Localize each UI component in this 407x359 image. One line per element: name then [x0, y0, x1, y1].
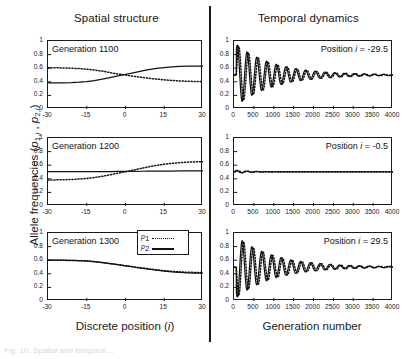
ytick-label-spatial-gen-1100-0: 0 [25, 104, 43, 111]
xtick-label-spatial-gen-1100-0: -30 [33, 111, 61, 118]
panel-label-spatial-gen-1300: Generation 1300 [52, 236, 119, 246]
ytick-label-spatial-gen-1100-2: 0.4 [25, 77, 43, 84]
xtick-label-spatial-gen-1100-2: 0 [111, 111, 139, 118]
column-title-temporal: Temporal dynamics [258, 12, 359, 24]
ytick-label-temporal-pos-minus29p5-0: 0 [211, 104, 229, 111]
ytick-label-temporal-pos-minus29p5-3: 0.6 [211, 63, 229, 70]
ytick-label-temporal-pos-minus0p5-2: 0.4 [211, 174, 229, 181]
ytick-label-spatial-gen-1200-5: 1 [25, 133, 43, 140]
ytick-label-spatial-gen-1200-1: 0.2 [25, 187, 43, 194]
figure-root: Spatial structure Temporal dynamics Alle… [0, 0, 407, 359]
xtick-label-spatial-gen-1300-0: -30 [33, 303, 61, 310]
ytick-label-temporal-pos-29p5-2: 0.4 [211, 269, 229, 276]
x-axis-label-left-suffix: ) [170, 320, 174, 332]
figure-caption: Fig. 10. Spatial and temporal ... [4, 346, 115, 355]
xtick-label-spatial-gen-1300-3: 15 [149, 303, 177, 310]
ytick-label-temporal-pos-minus0p5-5: 1 [211, 133, 229, 140]
ytick-label-temporal-pos-minus0p5-3: 0.6 [211, 160, 229, 167]
ytick-label-spatial-gen-1300-4: 0.8 [25, 242, 43, 249]
xtick-label-temporal-pos-minus29p5-8: 4000 [378, 111, 406, 118]
xtick-label-spatial-gen-1200-3: 15 [149, 208, 177, 215]
ytick-label-spatial-gen-1200-4: 0.8 [25, 147, 43, 154]
xtick-label-spatial-gen-1100-1: -15 [72, 111, 100, 118]
panel-label-temporal-pos-29p5: Position i = 29.5 [292, 236, 388, 246]
xtick-label-temporal-pos-minus0p5-8: 4000 [378, 208, 406, 215]
ytick-label-spatial-gen-1200-3: 0.6 [25, 160, 43, 167]
legend-item-p2: p2 [141, 243, 185, 253]
ytick-label-temporal-pos-minus0p5-1: 0.2 [211, 187, 229, 194]
ytick-label-spatial-gen-1100-3: 0.6 [25, 63, 43, 70]
ytick-label-temporal-pos-minus0p5-0: 0 [211, 201, 229, 208]
ytick-label-temporal-pos-29p5-4: 0.8 [211, 242, 229, 249]
ytick-label-spatial-gen-1200-0: 0 [25, 201, 43, 208]
ytick-label-spatial-gen-1100-5: 1 [25, 36, 43, 43]
series-curve-solid [234, 170, 393, 172]
xtick-label-spatial-gen-1200-0: -30 [33, 208, 61, 215]
ytick-label-spatial-gen-1100-4: 0.8 [25, 50, 43, 57]
xtick-label-spatial-gen-1100-4: 30 [188, 111, 216, 118]
ytick-label-temporal-pos-minus0p5-4: 0.8 [211, 147, 229, 154]
ytick-label-spatial-gen-1300-0: 0 [25, 296, 43, 303]
xtick-label-spatial-gen-1300-4: 30 [188, 303, 216, 310]
legend: p1 p2 [137, 230, 189, 255]
ytick-label-spatial-gen-1300-3: 0.6 [25, 255, 43, 262]
x-axis-label-left-text: Discrete position ( [76, 320, 168, 332]
ytick-label-temporal-pos-29p5-5: 1 [211, 228, 229, 235]
xtick-label-spatial-gen-1300-1: -15 [72, 303, 100, 310]
ytick-label-temporal-pos-minus29p5-4: 0.8 [211, 50, 229, 57]
ytick-label-temporal-pos-29p5-3: 0.6 [211, 255, 229, 262]
legend-swatch-solid [152, 245, 174, 251]
x-axis-label-left: Discrete position (i) [45, 320, 205, 332]
ytick-label-spatial-gen-1300-1: 0.2 [25, 282, 43, 289]
ytick-label-temporal-pos-29p5-0: 0 [211, 296, 229, 303]
legend-item-p1: p1 [141, 233, 185, 243]
panel-label-temporal-pos-minus0p5: Position i = -0.5 [292, 141, 388, 151]
ytick-label-temporal-pos-minus29p5-1: 0.2 [211, 90, 229, 97]
position-label-prefix: Position [321, 44, 356, 54]
xtick-label-temporal-pos-29p5-8: 4000 [378, 303, 406, 310]
legend-swatch-dotted [152, 235, 174, 241]
panel-label-spatial-gen-1100: Generation 1100 [52, 44, 118, 54]
ytick-label-temporal-pos-minus29p5-5: 1 [211, 36, 229, 43]
column-title-spatial: Spatial structure [74, 12, 159, 24]
position-label-prefix: Position [324, 236, 359, 246]
ytick-label-spatial-gen-1300-2: 0.4 [25, 269, 43, 276]
position-label-value: = -0.5 [362, 141, 388, 151]
ytick-label-spatial-gen-1300-5: 1 [25, 228, 43, 235]
xtick-label-spatial-gen-1200-2: 0 [111, 208, 139, 215]
ytick-label-temporal-pos-29p5-1: 0.2 [211, 282, 229, 289]
xtick-label-spatial-gen-1200-4: 30 [188, 208, 216, 215]
position-label-prefix: Position [326, 141, 361, 151]
xtick-label-spatial-gen-1200-1: -15 [72, 208, 100, 215]
panel-label-spatial-gen-1200: Generation 1200 [52, 141, 119, 151]
y-axis-label-sep: , [28, 123, 40, 133]
x-axis-label-right: Generation number [232, 320, 392, 332]
ytick-label-spatial-gen-1100-1: 0.2 [25, 90, 43, 97]
position-label-value: = 29.5 [360, 236, 388, 246]
legend-key-p1: p1 [141, 233, 149, 243]
legend-key-p2: p2 [141, 243, 149, 253]
xtick-label-spatial-gen-1100-3: 15 [149, 111, 177, 118]
series-curve-solid [48, 171, 203, 172]
position-label-value: = -29.5 [357, 44, 388, 54]
xtick-label-spatial-gen-1300-2: 0 [111, 303, 139, 310]
ytick-label-spatial-gen-1200-2: 0.4 [25, 174, 43, 181]
panel-label-temporal-pos-minus29p5: Position i = -29.5 [292, 44, 388, 54]
series-curve-solid [234, 241, 393, 297]
ytick-label-temporal-pos-minus29p5-2: 0.4 [211, 77, 229, 84]
